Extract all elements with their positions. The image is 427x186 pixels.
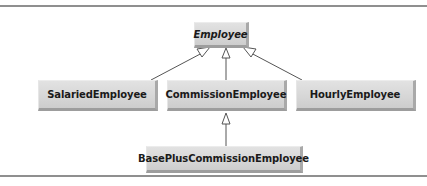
hollow-triangle-arrow-icon <box>222 48 230 58</box>
edge-baseplus-to-commission <box>222 113 230 146</box>
class-name: HourlyEmployee <box>310 89 401 100</box>
class-name: BasePlusCommissionEmployee <box>138 153 309 164</box>
edge-hourly-to-employee <box>243 47 302 80</box>
class-base-plus-commission-employee: BasePlusCommissionEmployee <box>146 146 303 173</box>
edge-commission-to-employee <box>222 48 230 80</box>
class-hourly-employee: HourlyEmployee <box>296 80 416 111</box>
hollow-triangle-arrow-icon <box>222 113 230 124</box>
class-name: CommissionEmployee <box>166 89 287 100</box>
class-name: SalariedEmployee <box>47 89 147 100</box>
uml-class-diagram: Employee SalariedEmployee CommissionEmpl… <box>0 0 427 186</box>
class-name: Employee <box>194 29 248 40</box>
edge-salaried-to-employee <box>151 47 210 80</box>
class-salaried-employee: SalariedEmployee <box>38 80 158 111</box>
hollow-triangle-arrow-icon <box>197 47 210 57</box>
hollow-triangle-arrow-icon <box>243 47 256 57</box>
class-commission-employee: CommissionEmployee <box>167 80 287 111</box>
class-employee: Employee <box>194 22 249 48</box>
